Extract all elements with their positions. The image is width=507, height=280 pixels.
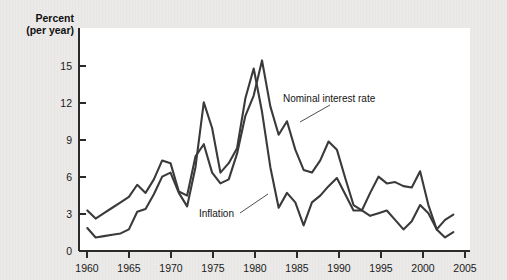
- y-tick-label-15: 15: [60, 60, 72, 72]
- y-tick-label-9: 9: [66, 134, 72, 146]
- x-tick-label-1985: 1985: [285, 262, 309, 274]
- nominal-annotation-label: Nominal interest rate: [283, 93, 376, 104]
- x-axis-ticks: 1960 1965 1970 1975 1980 1985 1990 1995 …: [75, 251, 477, 274]
- y-axis-title-line1: Percent: [35, 12, 74, 24]
- plot-area-background: [79, 28, 470, 251]
- y-tick-label-12: 12: [60, 97, 72, 109]
- x-tick-label-1995: 1995: [369, 262, 393, 274]
- y-tick-label-3: 3: [66, 208, 72, 220]
- x-tick-label-1960: 1960: [75, 262, 99, 274]
- inflation-annotation-label: Inflation: [199, 208, 234, 219]
- x-tick-label-1990: 1990: [327, 262, 351, 274]
- x-tick-label-1980: 1980: [243, 262, 267, 274]
- x-tick-label-1965: 1965: [117, 262, 141, 274]
- y-tick-label-0: 0: [66, 245, 72, 257]
- y-axis-title-line2: (per year): [26, 24, 74, 36]
- x-tick-label-2005: 2005: [453, 262, 477, 274]
- x-tick-label-2000: 2000: [411, 262, 435, 274]
- x-tick-label-1970: 1970: [159, 262, 183, 274]
- x-tick-label-1975: 1975: [201, 262, 225, 274]
- y-tick-label-6: 6: [66, 171, 72, 183]
- inflation-nominal-interest-rate-chart: Percent (per year) 15 12 9 6 3 0 1960 19…: [0, 0, 507, 280]
